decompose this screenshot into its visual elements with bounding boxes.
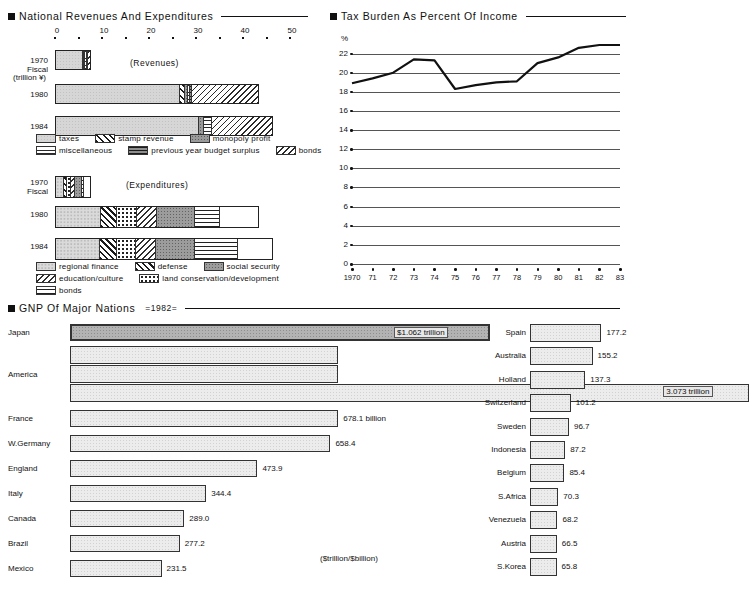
gnp-value-america: 3.073 trillion xyxy=(663,386,712,397)
gnp-left-column: Japan$1.062 trillionAmerica3.073 trillio… xyxy=(8,318,408,594)
legend-swatch-misc xyxy=(36,146,56,155)
segment-land-conservation-development xyxy=(117,239,137,259)
gnp-value-brazil: 277.2 xyxy=(185,539,205,548)
legend-label-bonds: bonds xyxy=(299,146,322,155)
legend-label-social: social security xyxy=(227,262,280,271)
segment-bonds xyxy=(195,239,238,259)
gnp-bar-sweden xyxy=(530,418,569,436)
bar-national-expenditures-1970 xyxy=(55,176,91,198)
segment-taxes xyxy=(56,51,83,69)
legend-row: regional financedefensesocial security xyxy=(36,262,314,271)
legend-swatch-taxes xyxy=(36,134,56,143)
gnp-section-header: GNP Of Major Nations =1982= xyxy=(8,302,620,314)
segment-bonds xyxy=(192,85,258,103)
row-label-year: 1980 xyxy=(8,90,48,99)
gnp-bar-indonesia xyxy=(530,441,565,459)
row-label-1984: 1984 xyxy=(8,242,48,251)
legend-swatch-stamp xyxy=(95,134,115,143)
row-label-year: 1984 xyxy=(8,122,48,131)
segment-defense xyxy=(101,207,117,227)
gnp-value-wgermany: 658.4 xyxy=(335,439,355,448)
gnp-label-canada: Canada xyxy=(8,514,66,523)
panel-title: National Revenues And Expenditures xyxy=(19,10,213,22)
gnp-bar-spain xyxy=(530,324,601,342)
segment-regional-finance xyxy=(56,177,64,197)
row-label-year: 1970 xyxy=(8,56,48,65)
segment-education-culture xyxy=(136,239,156,259)
gnp-bar-america-row2 xyxy=(70,365,338,383)
tax-burden-panel: Tax Burden As Percent Of Income % 222018… xyxy=(330,10,626,290)
row-label-sub: Fiscal xyxy=(8,65,48,74)
gnp-bar-austria xyxy=(530,535,557,553)
gnp-bar-mexico xyxy=(70,560,162,577)
gnp-value-austria: 66.5 xyxy=(562,539,578,548)
gnp-label-america: America xyxy=(8,370,66,379)
gnp-bar-switzerland xyxy=(530,394,571,412)
segment-defense xyxy=(100,239,116,259)
bar-national-revenues-1980 xyxy=(55,84,259,104)
row-label-sub: Fiscal xyxy=(8,187,48,196)
tax-burden-line-chart: 2220181614121086420197071727374757677787… xyxy=(330,32,626,284)
tax-section-header: Tax Burden As Percent Of Income xyxy=(330,10,626,22)
gnp-bar-australia xyxy=(530,347,593,365)
gnp-bar-england xyxy=(70,460,257,477)
bar-national-revenues-1970 xyxy=(55,50,91,70)
gnp-label-england: England xyxy=(8,464,66,473)
gnp-bar-wgermany xyxy=(70,435,330,452)
segment-land-conservation-development xyxy=(117,207,136,227)
gnp-value-venezuela: 68.2 xyxy=(562,515,578,524)
tax-panel-title: Tax Burden As Percent Of Income xyxy=(341,10,518,22)
gnp-label-safrica: S.Africa xyxy=(468,492,526,501)
legend-label-prevsurp: previous year budget surplus xyxy=(151,146,259,155)
gnp-value-australia: 155.2 xyxy=(598,351,618,360)
legend-swatch-bonds xyxy=(276,146,296,155)
gnp-value-mexico: 231.5 xyxy=(167,564,187,573)
bar-national-expenditures-1984 xyxy=(55,238,273,260)
row-label-year: 1970 xyxy=(8,178,48,187)
gnp-value-france: 678.1 billion xyxy=(343,414,386,423)
gnp-panel-title: GNP Of Major Nations xyxy=(19,302,135,314)
segment-bonds xyxy=(212,117,272,135)
gnp-label-skorea: S.Korea xyxy=(468,562,526,571)
revenues-section-header: National Revenues And Expenditures xyxy=(8,10,308,22)
gnp-value-indonesia: 87.2 xyxy=(570,445,586,454)
gnp-bar-america-row1 xyxy=(70,346,338,364)
legend-label-defense: defense xyxy=(158,262,188,271)
legend-label-edu: education/culture xyxy=(59,274,123,283)
gnp-label-australia: Australia xyxy=(468,351,526,360)
legend-swatch-bonds xyxy=(36,286,56,295)
gnp-bar-belgium xyxy=(530,464,564,482)
legend-row: education/cultureland conservation/devel… xyxy=(36,274,314,283)
axis-tick-label-0: 0 xyxy=(50,26,64,35)
axis-tick-label-30: 30 xyxy=(191,26,205,35)
gnp-value-switzerland: 101.2 xyxy=(576,398,596,407)
gnp-bar-safrica xyxy=(530,488,558,506)
tax-burden-line xyxy=(330,32,626,284)
axis-tick xyxy=(242,37,244,39)
gnp-bar-brazil xyxy=(70,535,180,552)
axis-tick xyxy=(54,37,56,39)
gnp-label-belgium: Belgium xyxy=(468,468,526,477)
gnp-bar-france xyxy=(70,410,338,427)
gnp-label-italy: Italy xyxy=(8,489,66,498)
gnp-bar-venezuela xyxy=(530,511,557,529)
gnp-value-spain: 177.2 xyxy=(606,328,626,337)
row-label-1980: 1980 xyxy=(8,210,48,219)
legend-label-region: regional finance xyxy=(59,262,119,271)
row-label-year: 1980 xyxy=(8,210,48,219)
row-label-1970: 1970Fiscal xyxy=(8,178,48,196)
header-rule xyxy=(185,308,620,309)
gnp-panel: GNP Of Major Nations =1982= Japan$1.062 … xyxy=(8,302,626,594)
gnp-value-canada: 289.0 xyxy=(189,514,209,523)
segment-social-security xyxy=(157,207,196,227)
gnp-label-france: France xyxy=(8,414,66,423)
axis-tick-label-50: 50 xyxy=(285,26,299,35)
gnp-value-skorea: 65.8 xyxy=(562,562,578,571)
gnp-right-column: Spain177.2Australia155.2Holland137.3Swit… xyxy=(408,318,626,594)
legend-label-bonds: bonds xyxy=(59,286,82,295)
gnp-label-spain: Spain xyxy=(468,328,526,337)
gnp-unit-note: ($trillion/$billion) xyxy=(320,554,378,563)
revenue-axis: 01020304050 xyxy=(8,26,308,44)
axis-tick-label-40: 40 xyxy=(238,26,252,35)
legend-label-misc: miscellaneous xyxy=(59,146,112,155)
